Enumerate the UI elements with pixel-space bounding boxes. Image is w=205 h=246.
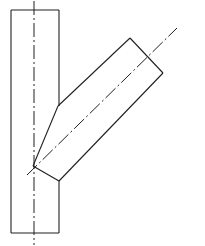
drawing-svg [0, 0, 205, 246]
technical-drawing-canvas [0, 0, 205, 246]
